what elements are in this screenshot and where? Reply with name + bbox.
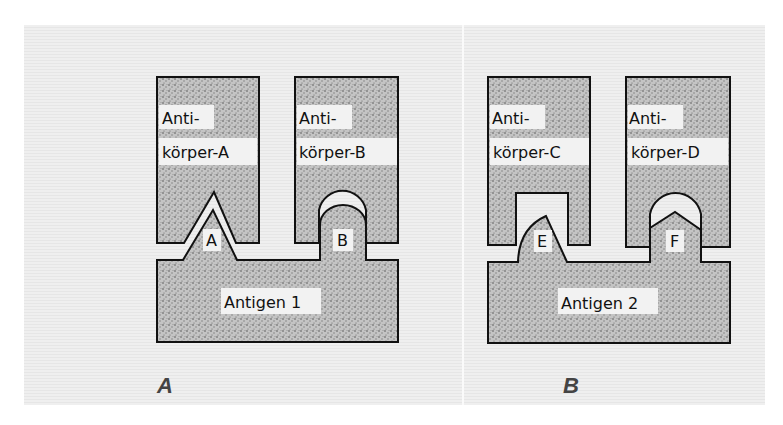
antibody-b-label-line2: körper-B (299, 143, 366, 162)
antibody-c-label-line1: Anti- (492, 109, 530, 128)
antibody-d-label-line2: körper-D (631, 143, 700, 162)
epitope-f-label: F (670, 232, 679, 251)
epitope-e-label: E (537, 232, 547, 251)
antigen-2-label: Antigen 2 (561, 294, 638, 313)
epitope-a-label: A (206, 231, 217, 250)
antibody-d-label-line1: Anti- (629, 109, 667, 128)
antibody-a-label-line1: Anti- (162, 109, 200, 128)
panel-b-letter: B (563, 373, 579, 398)
panel-a-letter: A (156, 373, 173, 398)
antibody-c-label-line2: körper-C (493, 143, 561, 162)
epitope-b-label: B (337, 231, 348, 250)
antibody-a-label-line2: körper-A (162, 143, 229, 162)
antigen-1-label: Antigen 1 (224, 293, 301, 312)
antibody-b-label-line1: Anti- (299, 109, 337, 128)
antibody-antigen-diagram: Anti- körper-A Anti- körper-B A B Antige… (0, 0, 783, 425)
